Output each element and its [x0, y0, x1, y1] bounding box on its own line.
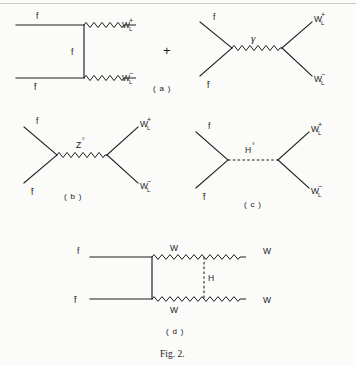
label-fermion-in-top: f	[77, 246, 80, 256]
label-fermion-in-top: f	[36, 116, 39, 126]
label-w-minus-subscript: L	[147, 187, 151, 193]
label-higgs: H	[208, 273, 214, 283]
label-fermion-in-bottom: f̄	[73, 295, 77, 305]
label-w-minus-out: W L −	[314, 71, 325, 86]
label-w-plus-superscript: +	[129, 17, 133, 24]
fermion-in-bottom-line	[200, 48, 232, 76]
fermion-in-top-line	[24, 127, 57, 155]
label-w-minus-superscript: −	[129, 70, 133, 77]
label-fermion-in-top: f	[36, 11, 39, 21]
label-w-minus-out: W L −	[311, 183, 322, 198]
figure-caption: Fig. 2.	[160, 349, 185, 359]
label-h-superscript: °	[252, 142, 255, 149]
diagram-a-right: f f̄ γ W L + W L −	[200, 11, 325, 90]
fermion-in-bottom-line	[24, 155, 57, 183]
label-w-plus-out: W L +	[311, 121, 322, 136]
label-w-plus-subscript: L	[147, 125, 151, 131]
label-w-plus-subscript: L	[129, 26, 133, 32]
label-z-boson: Z °	[76, 137, 85, 150]
label-w-minus-subscript: L	[318, 192, 322, 198]
label-fermion-in-bottom: f̄	[202, 192, 206, 202]
label-w-minus-superscript: −	[147, 178, 151, 185]
label-w-plus-superscript: +	[321, 11, 325, 18]
label-higgs-boson: H °	[245, 142, 255, 155]
label-w-minus-subscript: L	[321, 80, 325, 86]
label-w-out-top: W	[263, 246, 271, 256]
label-fermion-in-bottom: f̄	[206, 80, 210, 90]
label-w-plus-subscript: L	[318, 130, 322, 136]
panel-label-d: ( d )	[166, 327, 184, 336]
w-minus-out-line	[282, 48, 312, 76]
label-w-minus-out: W L −	[140, 178, 151, 193]
label-w-out-bottom: W	[263, 295, 271, 305]
label-w-minus-superscript: −	[318, 183, 322, 190]
fermion-in-top-line	[196, 132, 228, 160]
label-w-plus-out: W L +	[140, 116, 151, 131]
label-h-base: H	[245, 145, 251, 155]
w-minus-out-line	[107, 155, 138, 183]
label-z-base: Z	[76, 140, 81, 150]
z-boson-propagator-wavy	[57, 152, 107, 157]
label-fermion-in-bottom: f̄	[30, 187, 34, 197]
label-w-bottom: W	[170, 305, 178, 315]
label-w-plus-subscript: L	[321, 20, 325, 26]
label-w-plus-superscript: +	[147, 116, 151, 123]
w-plus-out-line	[107, 127, 138, 155]
label-internal-fermion: f	[71, 47, 74, 57]
w-top-wavy	[152, 255, 246, 260]
figure-page: f f̄ f W L + W L − + f f̄	[0, 0, 356, 366]
feynman-figure-canvas: f f̄ f W L + W L − + f f̄	[0, 0, 356, 366]
diagram-c: f f̄ H ° W L + W L − ( c )	[196, 121, 322, 209]
photon-propagator-wavy	[232, 45, 282, 50]
fermion-in-bottom-line	[196, 160, 228, 188]
label-w-minus-superscript: −	[321, 71, 325, 78]
diagram-d: f f̄ W W H W W ( d )	[73, 243, 271, 336]
label-fermion-in-top: f	[213, 12, 216, 22]
label-w-plus-out: W L +	[314, 11, 325, 26]
label-w-plus-superscript: +	[318, 121, 322, 128]
fermion-in-top-line	[200, 22, 232, 48]
w-bottom-wavy	[152, 297, 246, 302]
w-minus-out-line	[278, 160, 309, 188]
w-plus-out-line	[278, 132, 309, 160]
label-w-top: W	[170, 243, 178, 253]
label-photon: γ	[251, 32, 256, 44]
diagram-a-left: f f̄ f W L + W L −	[16, 11, 136, 92]
w-plus-out-line	[282, 22, 312, 48]
panel-label-a: ( a )	[153, 84, 171, 93]
label-w-minus-subscript: L	[129, 79, 133, 85]
panel-label-c: ( c )	[244, 200, 262, 209]
label-fermion-in-bottom: f̄	[33, 82, 37, 92]
diagram-b: f f̄ Z ° W L + W L − ( b )	[24, 116, 151, 201]
label-fermion-in-top: f	[208, 121, 211, 131]
panel-label-b: ( b )	[64, 192, 82, 201]
label-z-superscript: °	[82, 137, 85, 144]
plus-separator: +	[163, 43, 171, 58]
